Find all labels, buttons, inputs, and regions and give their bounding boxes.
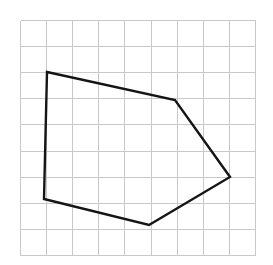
polygon-grid-figure: Irregular pentagon drawn on a square gri… [0,0,273,265]
figure-background [0,0,273,265]
figure-container: Irregular pentagon drawn on a square gri… [0,0,273,265]
